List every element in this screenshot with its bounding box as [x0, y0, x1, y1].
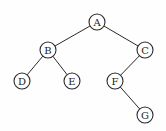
edge-b-e	[53, 56, 67, 74]
nodes: ABCDEFG	[14, 14, 153, 123]
node-e: E	[64, 73, 80, 89]
node-label: G	[141, 110, 149, 121]
tree-svg: ABCDEFG	[0, 0, 166, 131]
node-b: B	[40, 42, 56, 58]
node-label: E	[68, 76, 75, 87]
edge-c-f	[121, 56, 140, 76]
edge-b-d	[27, 56, 43, 75]
edge-a-b	[55, 26, 90, 46]
node-label: D	[18, 76, 26, 87]
tree-diagram: ABCDEFG	[0, 0, 166, 131]
node-a: A	[89, 14, 105, 30]
edges	[27, 26, 140, 109]
node-label: F	[112, 76, 119, 87]
node-f: F	[107, 73, 123, 89]
node-c: C	[137, 42, 153, 58]
node-label: C	[141, 45, 149, 56]
edge-a-c	[104, 26, 138, 46]
edge-f-g	[120, 87, 139, 109]
node-d: D	[14, 73, 30, 89]
node-label: B	[44, 45, 51, 56]
node-g: G	[137, 107, 153, 123]
node-label: A	[92, 17, 101, 28]
